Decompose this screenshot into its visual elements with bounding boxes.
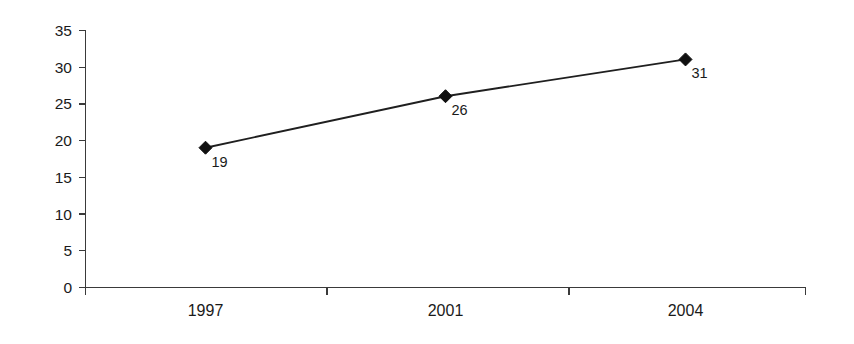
y-tick-label-35: 35 [18, 23, 72, 39]
x-axis-ticks [86, 288, 806, 296]
x-tick-label-2001: 2001 [386, 303, 506, 319]
data-label-2001: 26 [452, 103, 468, 118]
series-line-path [206, 59, 686, 147]
data-label-2004: 31 [692, 66, 708, 81]
y-tick-label-10: 10 [18, 207, 72, 223]
data-point-marker [199, 141, 212, 154]
y-tick-label-15: 15 [18, 170, 72, 186]
x-tick-label-2004: 2004 [626, 303, 746, 319]
line-chart: 35 30 25 20 15 10 5 0 1997 2001 2004 19 … [0, 0, 854, 344]
y-tick-label-5: 5 [18, 243, 72, 259]
data-point-marker [439, 90, 452, 103]
x-tick-label-1997: 1997 [146, 303, 266, 319]
data-label-1997: 19 [212, 155, 228, 170]
y-tick-label-20: 20 [18, 133, 72, 149]
series-markers [199, 53, 692, 154]
data-point-marker [679, 53, 692, 66]
y-tick-label-30: 30 [18, 60, 72, 76]
chart-plot-area [0, 0, 854, 344]
y-tick-label-0: 0 [18, 280, 72, 296]
y-tick-label-25: 25 [18, 96, 72, 112]
